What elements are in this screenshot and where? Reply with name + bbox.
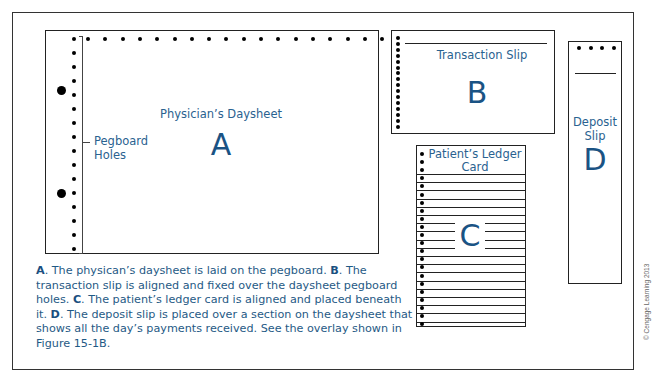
pegboard-label-line1: Pegboard	[94, 134, 148, 148]
hole-dot	[612, 46, 616, 50]
ledger-row-line	[417, 190, 525, 191]
hole-dot	[396, 125, 400, 129]
pegboard-label-line2: Holes	[94, 148, 148, 162]
hole-dot	[396, 89, 400, 93]
hole-dot	[72, 121, 76, 125]
hole-dot	[224, 37, 228, 41]
hole-dot	[420, 193, 424, 197]
pegboard-holes-label: Pegboard Holes	[94, 134, 148, 162]
ledger-row-line	[417, 215, 525, 216]
hole-dot	[420, 314, 424, 318]
deposit-slip: Deposit Slip D	[568, 41, 622, 284]
hole-dot	[420, 306, 424, 310]
hole-dot	[72, 65, 76, 69]
copyright-notice: © Cengage Learning 2013	[643, 264, 650, 340]
deposit-slip-line	[575, 73, 616, 74]
hole-dot	[72, 191, 76, 195]
hole-dot	[420, 225, 424, 229]
hole-dot	[420, 282, 424, 286]
hole-dot	[589, 46, 593, 50]
hole-dot	[155, 37, 159, 41]
hole-dot	[420, 274, 424, 278]
hole-dot	[420, 322, 424, 326]
ledger-row-line	[417, 199, 525, 200]
hole-dot	[207, 37, 211, 41]
caption-key-d: D	[51, 308, 60, 321]
deposit-slip-label: Deposit Slip	[569, 115, 621, 143]
caption-key-b: B	[330, 264, 339, 277]
deposit-slip-letter: D	[569, 142, 621, 177]
caption-key-a: A	[36, 264, 45, 277]
hole-dot	[396, 42, 400, 46]
hole-dot	[396, 83, 400, 87]
hole-dot	[420, 168, 424, 172]
hole-dot	[190, 37, 194, 41]
ledger-row-line	[417, 322, 525, 323]
ledger-card-letter: C	[455, 220, 485, 252]
ledger-row-line	[417, 272, 525, 273]
ledger-card-label: Patient’s Ledger Card	[427, 148, 523, 174]
hole-dot	[420, 241, 424, 245]
pegboard-bracket	[79, 36, 83, 254]
hole-dot	[86, 37, 90, 41]
hole-dot	[420, 176, 424, 180]
deposit-slip-label-line2: Slip	[569, 129, 621, 143]
ledger-row-line	[417, 207, 525, 208]
hole-dot	[420, 249, 424, 253]
hole-dot	[363, 37, 367, 41]
hole-dot	[138, 37, 142, 41]
hole-dot	[121, 37, 125, 41]
hole-dot	[72, 93, 76, 97]
hole-dot	[396, 71, 400, 75]
hole-dot	[420, 257, 424, 261]
hole-dot	[420, 233, 424, 237]
hole-dot	[396, 101, 400, 105]
caption-text-a: . The physican’s daysheet is laid on the…	[45, 264, 331, 277]
transaction-slip-line	[405, 43, 547, 44]
hole-dot	[72, 107, 76, 111]
transaction-slip-letter: B	[452, 75, 502, 110]
hole-dot	[420, 290, 424, 294]
hole-dot	[242, 37, 246, 41]
pegboard-pointer-line	[83, 142, 90, 143]
hole-dot	[396, 77, 400, 81]
ledger-row-line	[417, 174, 525, 175]
hole-dot	[577, 46, 581, 50]
hole-dot	[72, 219, 76, 223]
patients-ledger-card: Patient’s Ledger Card C	[416, 145, 526, 327]
hole-dot	[328, 37, 332, 41]
hole-dot	[420, 265, 424, 269]
figure-caption: A. The physican’s daysheet is laid on th…	[36, 264, 416, 352]
hole-dot	[72, 135, 76, 139]
hole-dot	[396, 48, 400, 52]
hole-dot	[420, 152, 424, 156]
ledger-row-line	[417, 281, 525, 282]
hole-dot	[396, 107, 400, 111]
ledger-row-line	[417, 182, 525, 183]
daysheet-letter: A	[196, 127, 246, 162]
hole-dot	[420, 217, 424, 221]
hole-dot	[259, 37, 263, 41]
ledger-row-line	[417, 264, 525, 265]
hole-dot	[396, 95, 400, 99]
physicians-daysheet: Pegboard Holes Physician’s Daysheet A	[45, 30, 379, 254]
hole-dot	[72, 149, 76, 153]
pegboard-hole-large	[57, 86, 66, 95]
transaction-slip-label: Transaction Slip	[412, 48, 552, 62]
caption-text-d: . The deposit slip is placed over a sect…	[36, 308, 412, 350]
hole-dot	[72, 163, 76, 167]
hole-dot	[396, 113, 400, 117]
hole-dot	[346, 37, 350, 41]
ledger-row-line	[417, 256, 525, 257]
daysheet-label: Physician’s Daysheet	[146, 107, 296, 121]
hole-dot	[72, 79, 76, 83]
caption-key-c: C	[73, 293, 81, 306]
transaction-slip: Transaction Slip B	[391, 30, 555, 134]
hole-dot	[420, 201, 424, 205]
hole-dot	[396, 60, 400, 64]
hole-dot	[420, 298, 424, 302]
hole-dot	[276, 37, 280, 41]
hole-dot	[396, 119, 400, 123]
hole-dot	[103, 37, 107, 41]
ledger-card-label-line2: Card	[427, 161, 523, 174]
